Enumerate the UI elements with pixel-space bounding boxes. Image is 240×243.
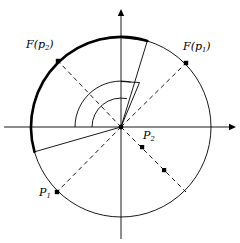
label-p2-sub: 2 xyxy=(150,135,154,143)
ray-to-p1 xyxy=(57,127,121,192)
chord-inner-to-axis xyxy=(121,82,140,83)
y-axis-arrowhead xyxy=(118,9,124,16)
point-unlabeled-dot xyxy=(162,168,166,172)
label-f-p2: F(p2) xyxy=(26,39,54,52)
label-f-p2-close: ) xyxy=(49,38,53,51)
origin-dot xyxy=(119,125,124,130)
label-f-p1-base: F(p xyxy=(183,40,202,53)
solid-radii-group xyxy=(32,38,148,152)
label-f-p1: F(p1) xyxy=(183,41,211,54)
radius-inner-upper xyxy=(121,83,140,128)
label-f-p1-close: ) xyxy=(206,40,210,53)
point-f-p2-dot xyxy=(56,59,60,63)
point-p1-dot xyxy=(55,190,59,194)
label-p2: P2 xyxy=(143,130,155,143)
label-f-p2-base: F(p xyxy=(26,38,45,51)
figure-canvas xyxy=(0,0,240,243)
math-figure-spiral-map: F(p2) F(p1) P1 P2 xyxy=(0,0,240,243)
x-axis-arrowhead xyxy=(229,124,236,130)
point-p2-dot xyxy=(140,145,144,149)
label-p1-sub: 1 xyxy=(46,192,50,200)
radius-to-arc-start xyxy=(35,127,122,152)
point-f-p1-dot xyxy=(184,61,188,65)
label-p1: P1 xyxy=(39,187,51,200)
